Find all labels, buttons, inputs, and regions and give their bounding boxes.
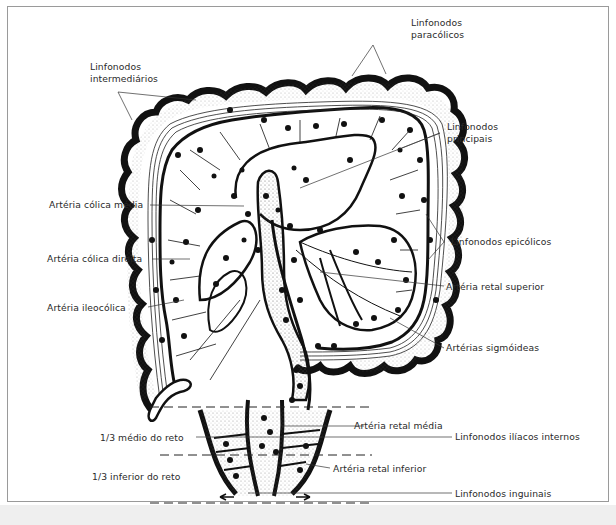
label-main-nodes: Linfonodos principais — [447, 121, 498, 145]
label-line: Linfonodos — [411, 17, 464, 29]
mesenteric-root — [258, 171, 310, 400]
label-sigmoid-arteries: Artérias sigmóideas — [446, 342, 539, 354]
label-line: Linfonodos — [90, 61, 158, 73]
label-line: intermediários — [90, 73, 158, 85]
label-intermediate-nodes: Linfonodos intermediários — [90, 61, 158, 85]
label-line: principais — [447, 133, 498, 145]
label-right-colic-artery: Artéria cólica direita — [47, 253, 142, 265]
label-epicolic-nodes: Linfonodos epicólicos — [451, 236, 551, 248]
label-inferior-rectal-artery: Artéria retal inferior — [333, 463, 426, 475]
label-middle-colic-artery: Artéria cólica média — [49, 199, 143, 211]
label-middle-third-rectum: 1/3 médio do reto — [100, 432, 184, 444]
appendix — [149, 380, 191, 421]
label-paracolic-nodes: Linfonodos paracólicos — [411, 17, 464, 41]
label-superior-rectal-artery: Artéria retal superior — [446, 281, 544, 293]
label-inguinal-nodes: Linfonodos inguinais — [455, 488, 551, 500]
label-lower-third-rectum: 1/3 inferior do reto — [92, 471, 180, 483]
label-line: paracólicos — [411, 29, 464, 41]
label-ileocolic-artery: Artéria ileocólica — [47, 302, 126, 314]
label-line: Linfonodos — [447, 121, 498, 133]
label-middle-rectal-artery: Artéria retal média — [354, 420, 443, 432]
rectum — [200, 400, 330, 500]
label-internal-iliac-nodes: Linfonodos ilíacos internos — [455, 431, 580, 443]
